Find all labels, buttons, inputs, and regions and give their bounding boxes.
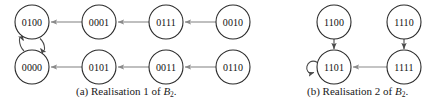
caption-panel-b: (b) Realisation 2 of B2. — [307, 86, 408, 97]
caption-text: Realisation 1 of — [91, 85, 161, 97]
caption-text: Realisation 2 of — [323, 85, 393, 97]
caption-suffix: . — [174, 85, 177, 97]
caption-prefix: (a) — [76, 85, 88, 97]
caption-panel-a: (a) Realisation 1 of B2. — [76, 86, 177, 97]
edge-0100-to-0000-curved — [40, 39, 45, 51]
panel-a-nodes: 0100 0001 0111 0010 0000 0101 — [15, 5, 250, 84]
node-0110[interactable]: 0110 — [216, 50, 250, 84]
node-label: 0001 — [89, 17, 109, 28]
node-1111[interactable]: 1111 — [387, 50, 421, 84]
node-0000[interactable]: 0000 — [15, 50, 49, 84]
node-label: 0111 — [156, 17, 176, 28]
caption-subscript: 2 — [170, 90, 174, 99]
node-label: 1100 — [324, 17, 344, 28]
node-1101[interactable]: 1101 — [317, 50, 351, 84]
node-label: 0100 — [22, 17, 42, 28]
caption-suffix: . — [405, 85, 408, 97]
caption-prefix: (b) — [307, 85, 320, 97]
node-label: 0101 — [89, 62, 109, 73]
node-0100[interactable]: 0100 — [15, 5, 49, 39]
node-label: 0011 — [156, 62, 176, 73]
edge-1101-self-loop — [307, 61, 318, 73]
edge-0000-to-0100-curved — [19, 37, 24, 51]
node-0101[interactable]: 0101 — [82, 50, 116, 84]
node-1100[interactable]: 1100 — [317, 5, 351, 39]
panel-a-edges — [19, 22, 216, 67]
node-0001[interactable]: 0001 — [82, 5, 116, 39]
caption-subscript: 2 — [402, 90, 406, 99]
node-1110[interactable]: 1110 — [387, 5, 421, 39]
node-label: 1101 — [324, 62, 344, 73]
caption-symbol: B — [395, 85, 402, 97]
node-0011[interactable]: 0011 — [149, 50, 183, 84]
figure-container: 0100 0001 0111 0010 0000 0101 — [0, 0, 429, 106]
node-label: 0010 — [223, 17, 243, 28]
node-0010[interactable]: 0010 — [216, 5, 250, 39]
node-0111[interactable]: 0111 — [149, 5, 183, 39]
node-label: 0000 — [22, 62, 42, 73]
node-label: 1111 — [394, 62, 413, 73]
node-label: 0110 — [223, 62, 243, 73]
node-label: 1110 — [394, 17, 414, 28]
panel-b-nodes: 1100 1110 1101 1111 — [317, 5, 421, 84]
